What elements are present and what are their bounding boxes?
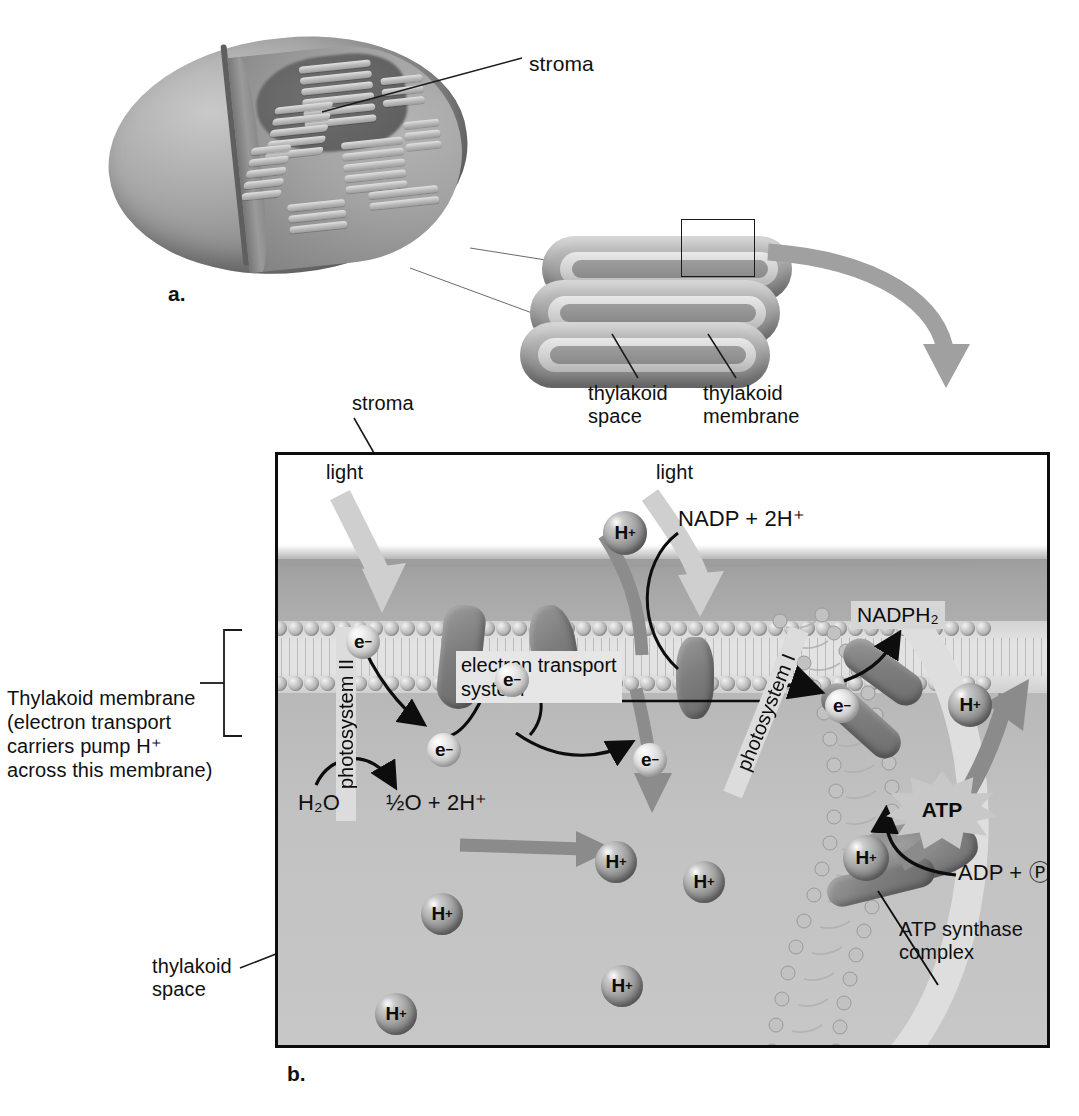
proton-sphere: H+ <box>683 861 725 903</box>
label-atp-synthase-complex: ATP synthase complex <box>899 918 1023 964</box>
proton-sphere: H+ <box>603 511 647 555</box>
label-thylakoid-space-stack: thylakoid space <box>588 382 668 428</box>
proton-sphere: H+ <box>421 893 463 935</box>
nadph2-product-label: NADPH₂ <box>851 601 945 629</box>
proton-sphere-released: H+ <box>948 683 992 727</box>
label-thylakoid-space-panel-b: thylakoid space <box>152 955 232 1001</box>
zoom-region-box <box>681 219 755 277</box>
electron-sphere: e− <box>495 663 529 697</box>
water-reactant-label: H₂O <box>298 791 340 814</box>
panel-a-letter: a. <box>168 282 186 306</box>
electron-sphere: e− <box>633 743 667 777</box>
nadp-reactant-label: NADP + 2H⁺ <box>678 507 805 530</box>
granum-stack <box>240 144 292 205</box>
magnify-arrow <box>760 240 1010 400</box>
proton-sphere: H+ <box>375 993 417 1035</box>
adp-reactant-label: ADP + Ⓟ <box>958 861 1050 884</box>
label-thylakoid-membrane-stack: thylakoid membrane <box>703 382 799 428</box>
photosystem-2-label: photosystem II <box>334 659 358 789</box>
label-stroma-panel-a: stroma <box>529 52 594 75</box>
proton-sphere: H+ <box>595 841 637 883</box>
electron-sphere: e− <box>346 625 380 659</box>
label-thylakoid-membrane-note: Thylakoid membrane (electron transport c… <box>7 686 213 782</box>
electron-sphere: e− <box>825 689 859 723</box>
stroma-leader-line <box>300 50 540 140</box>
light-label-right: light <box>656 461 693 484</box>
electron-transport-system-label: electron transport system <box>456 651 622 703</box>
figure-canvas: a. stroma thylakoid space thylakoid memb… <box>0 0 1079 1116</box>
electron-sphere: e− <box>427 733 461 767</box>
stack-label-leaders <box>590 320 790 390</box>
panel-b-letter: b. <box>287 1062 306 1086</box>
light-label-left: light <box>326 461 363 484</box>
proton-sphere: H+ <box>601 965 643 1007</box>
oxygen-product-label: ½O + 2H⁺ <box>386 791 487 814</box>
proton-sphere-synthase: H+ <box>843 835 889 881</box>
